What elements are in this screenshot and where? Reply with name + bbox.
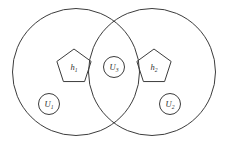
pentagon-h1-group: h1 xyxy=(57,49,91,82)
node-u1-label: U1 xyxy=(45,99,54,110)
node-u3-group: U3 xyxy=(104,57,125,78)
pentagon-h2-label: h2 xyxy=(150,62,157,73)
node-u3-label: U3 xyxy=(110,62,119,73)
node-u1-group: U1 xyxy=(39,94,60,115)
venn-diagram: h1 h2 U3 U1 U2 xyxy=(0,0,228,145)
pentagon-h2-label-sub: 2 xyxy=(155,67,158,73)
node-u3-label-sub: 3 xyxy=(115,67,119,73)
pentagon-h1-label-sub: 1 xyxy=(75,67,78,73)
node-u2-label: U2 xyxy=(166,99,175,110)
figure-root: h1 h2 U3 U1 U2 xyxy=(0,0,228,145)
node-u1-label-sub: 1 xyxy=(51,104,54,110)
pentagon-h1-label: h1 xyxy=(70,62,77,73)
node-u2-group: U2 xyxy=(160,94,181,115)
pentagon-h2-group: h2 xyxy=(137,49,171,82)
node-u2-label-sub: 2 xyxy=(172,104,175,110)
